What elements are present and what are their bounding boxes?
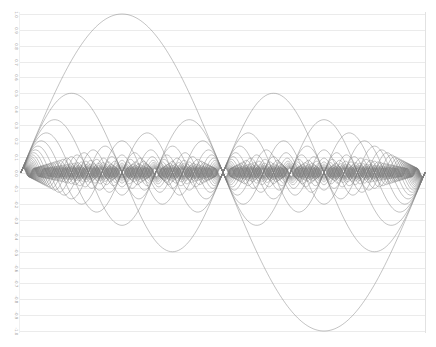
y-tick-label: -0.1	[14, 185, 19, 193]
y-tick-label: -0.8	[14, 296, 19, 304]
y-tick-label: -0.3	[14, 217, 19, 225]
y-tick-label: -0.9	[14, 312, 19, 320]
y-tick-label: 0.1	[14, 154, 19, 161]
y-tick-label: -0.7	[14, 280, 19, 288]
y-tick-label: 0.8	[14, 43, 19, 50]
y-tick-label: 0.3	[14, 122, 19, 129]
y-tick-label: -0.6	[14, 265, 19, 273]
y-tick-label: 1.0	[14, 11, 19, 18]
y-tick-label: -0.2	[14, 201, 19, 209]
y-axis-tick-labels: 1.00.90.80.70.60.50.40.30.20.10.0-0.1-0.…	[14, 11, 19, 336]
line-chart: 1.00.90.80.70.60.50.40.30.20.10.0-0.1-0.…	[0, 0, 436, 347]
y-tick-label: 0.5	[14, 90, 19, 97]
y-tick-label: -0.4	[14, 233, 19, 241]
y-tick-label: 0.0	[14, 170, 19, 177]
y-tick-label: -0.5	[14, 249, 19, 257]
y-tick-label: 0.2	[14, 138, 19, 145]
y-tick-label: 0.7	[14, 59, 19, 66]
y-tick-label: -1.0	[14, 328, 19, 336]
y-tick-label: 0.9	[14, 27, 19, 34]
y-tick-label: 0.6	[14, 74, 19, 81]
y-tick-label: 0.4	[14, 106, 19, 113]
